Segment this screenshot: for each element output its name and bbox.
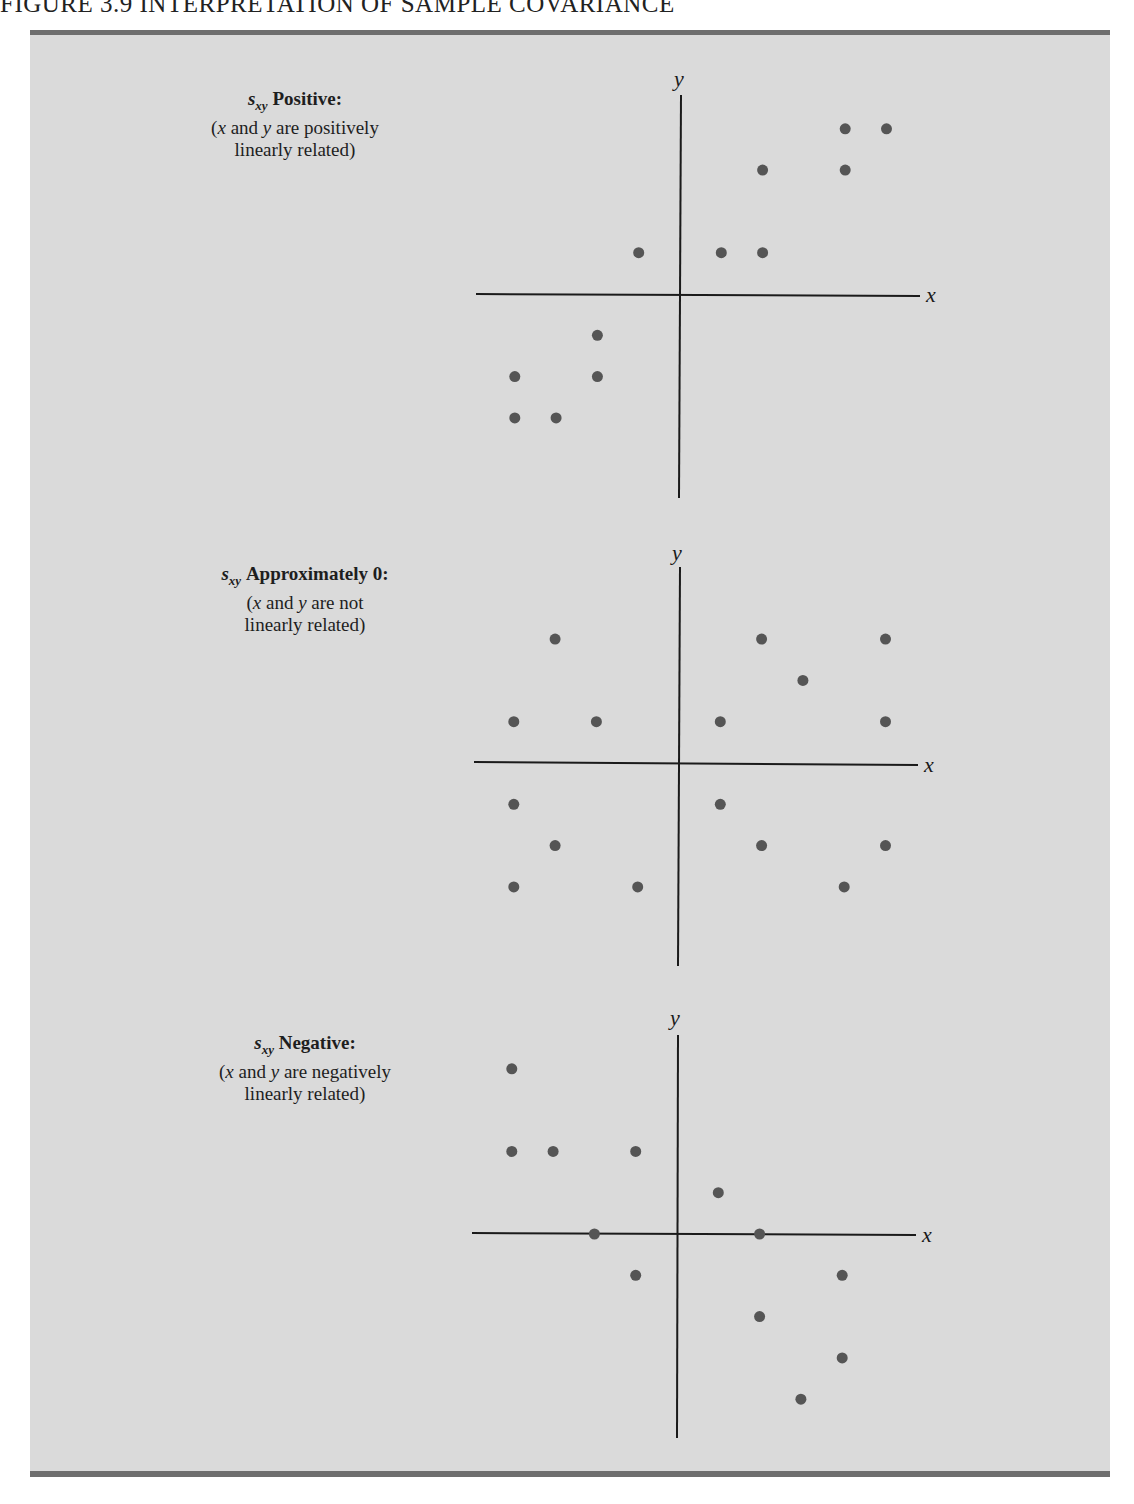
- data-point: [713, 1187, 724, 1198]
- panel-label-negative: sxy Negative: (x and y are negatively li…: [175, 1032, 435, 1105]
- data-point: [880, 634, 891, 645]
- figure-title: FIGURE 3.9 INTERPRETATION OF SAMPLE COVA…: [0, 0, 675, 18]
- data-point: [508, 881, 519, 892]
- bottom-rule: [30, 1471, 1110, 1477]
- data-point: [840, 123, 851, 134]
- panel-description-line2: linearly related): [175, 614, 435, 636]
- data-point: [589, 1229, 600, 1240]
- panel-description: (x and y are negatively: [175, 1061, 435, 1083]
- panel-heading: sxy Negative:: [175, 1032, 435, 1061]
- data-point: [837, 1270, 848, 1281]
- y-axis: [678, 567, 680, 966]
- data-point: [756, 634, 767, 645]
- data-point: [880, 716, 891, 727]
- x-axis-label: x: [923, 752, 934, 777]
- x-axis-label: x: [925, 282, 936, 307]
- data-point: [548, 1146, 559, 1157]
- data-point: [837, 1352, 848, 1363]
- data-point: [797, 675, 808, 686]
- data-point: [880, 840, 891, 851]
- data-point: [881, 123, 892, 134]
- panel-heading: sxy Positive:: [165, 88, 425, 117]
- data-point: [551, 412, 562, 423]
- panel-heading: sxy Approximately 0:: [175, 563, 435, 592]
- data-points: [509, 123, 892, 423]
- data-point: [756, 840, 767, 851]
- data-point: [632, 881, 643, 892]
- scatter-plot-negative: y x: [460, 1000, 960, 1460]
- data-point: [509, 412, 520, 423]
- data-point: [506, 1063, 517, 1074]
- y-axis: [677, 1035, 678, 1438]
- data-point: [550, 634, 561, 645]
- x-axis: [474, 762, 918, 765]
- x-axis-label: x: [921, 1222, 932, 1247]
- data-point: [757, 165, 768, 176]
- data-point: [715, 799, 726, 810]
- data-point: [508, 799, 519, 810]
- panel-label-zero: sxy Approximately 0: (x and y are not li…: [175, 563, 435, 636]
- data-point: [509, 371, 520, 382]
- data-point: [506, 1146, 517, 1157]
- data-point: [591, 716, 602, 727]
- y-axis-label: y: [672, 66, 684, 91]
- x-axis: [472, 1233, 916, 1235]
- data-point: [630, 1146, 641, 1157]
- data-point: [630, 1270, 641, 1281]
- panel-description-line2: linearly related): [175, 1083, 435, 1105]
- data-point: [592, 371, 603, 382]
- y-axis-label: y: [668, 1005, 680, 1030]
- data-point: [795, 1394, 806, 1405]
- y-axis-label: y: [670, 540, 682, 565]
- data-point: [754, 1229, 765, 1240]
- data-point: [592, 330, 603, 341]
- data-point: [715, 716, 726, 727]
- y-axis: [679, 95, 681, 498]
- data-point: [716, 247, 727, 258]
- panel-label-positive: sxy Positive: (x and y are positively li…: [165, 88, 425, 161]
- data-point: [550, 840, 561, 851]
- x-axis: [476, 294, 920, 296]
- panel-description: (x and y are not: [175, 592, 435, 614]
- data-point: [839, 881, 850, 892]
- data-point: [840, 165, 851, 176]
- data-point: [633, 247, 644, 258]
- data-point: [754, 1311, 765, 1322]
- data-point: [757, 247, 768, 258]
- panel-description-line2: linearly related): [165, 139, 425, 161]
- top-rule: [30, 30, 1110, 35]
- panel-description: (x and y are positively: [165, 117, 425, 139]
- scatter-plot-positive: y x: [460, 60, 960, 520]
- data-point: [508, 716, 519, 727]
- scatter-plot-zero: y x: [460, 530, 960, 990]
